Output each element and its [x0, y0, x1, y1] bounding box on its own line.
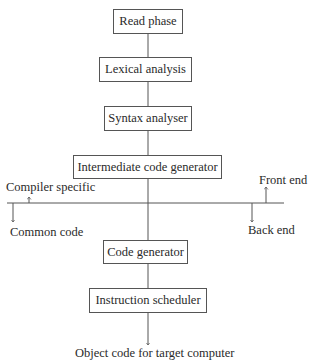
instruction-scheduler-box: Instruction scheduler: [89, 288, 207, 313]
output-label: Object code for target computer: [75, 346, 234, 360]
code-generator-box: Code generator: [103, 240, 188, 264]
syntax-analyser-box: Syntax analyser: [104, 106, 192, 131]
syntax-analyser-label: Syntax analyser: [108, 111, 188, 126]
intermediate-code-generator-label: Intermediate code generator: [77, 160, 217, 175]
compiler-specific-label: Compiler specific: [6, 180, 95, 194]
front-end-label: Front end: [259, 173, 307, 187]
common-code-label: Common code: [10, 225, 83, 239]
read-phase-box: Read phase: [113, 9, 183, 34]
back-end-label: Back end: [248, 223, 295, 237]
code-generator-label: Code generator: [107, 245, 184, 260]
instruction-scheduler-label: Instruction scheduler: [95, 293, 200, 308]
read-phase-label: Read phase: [119, 14, 176, 29]
lexical-analysis-label: Lexical analysis: [105, 62, 186, 77]
intermediate-code-generator-box: Intermediate code generator: [73, 155, 222, 179]
lexical-analysis-box: Lexical analysis: [99, 57, 192, 82]
